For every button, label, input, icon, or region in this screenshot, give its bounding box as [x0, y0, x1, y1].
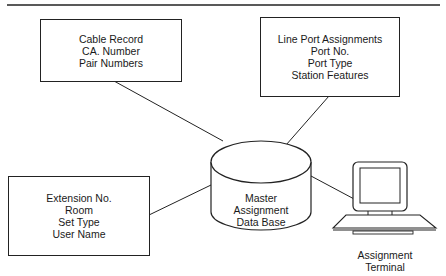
- database-label-line: Data Base: [216, 216, 306, 228]
- database-label: Master Assignment Data Base: [216, 192, 306, 228]
- line-port-box: Line Port Assignments Port No. Port Type…: [260, 17, 400, 97]
- database-label-line: Assignment: [216, 204, 306, 216]
- extension-box: Extension No. Room Set Type User Name: [8, 176, 150, 256]
- connector-lineport-to-db: [286, 96, 329, 145]
- box-line: Port No.: [311, 45, 350, 57]
- box-line: Port Type: [308, 57, 353, 69]
- box-line: Line Port Assignments: [278, 33, 382, 45]
- database-label-line: Master: [216, 192, 306, 204]
- terminal-label: Assignment Terminal: [340, 249, 430, 273]
- box-line: Cable Record: [79, 33, 143, 45]
- terminal-label-line: Assignment: [340, 249, 430, 261]
- connector-db-to-terminal: [311, 176, 356, 200]
- box-line: Extension No.: [46, 192, 111, 204]
- box-line: Station Features: [291, 69, 368, 81]
- box-line: Pair Numbers: [79, 57, 143, 69]
- terminal-label-line: Terminal: [340, 261, 430, 273]
- connector-cable-to-db: [114, 81, 223, 141]
- cable-record-box: Cable Record CA. Number Pair Numbers: [40, 19, 182, 82]
- connector-extension-to-db: [149, 185, 211, 215]
- box-line: User Name: [52, 228, 105, 240]
- computer-terminal-icon: [333, 162, 436, 234]
- box-line: CA. Number: [82, 45, 140, 57]
- box-line: Room: [65, 204, 93, 216]
- box-line: Set Type: [58, 216, 99, 228]
